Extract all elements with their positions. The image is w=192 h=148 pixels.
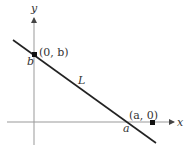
y-axis-label: y	[30, 2, 38, 15]
x-intercept-label: (a, 0)	[129, 109, 158, 122]
coordinate-diagram: y x L (0, b) b (a, 0) a	[0, 0, 192, 148]
x-axis-label: x	[177, 116, 184, 129]
a-axis-label: a	[123, 122, 130, 135]
line-label: L	[77, 74, 85, 87]
y-intercept-label: (0, b)	[39, 46, 69, 59]
b-axis-label: b	[27, 55, 34, 68]
